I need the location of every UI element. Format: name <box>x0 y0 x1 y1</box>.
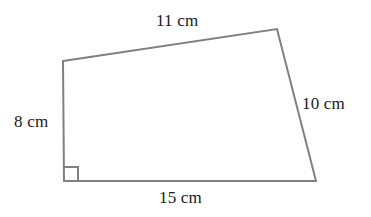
geometry-figure: 11 cm 8 cm 10 cm 15 cm <box>0 0 371 217</box>
side-length-label-right: 10 cm <box>302 95 345 112</box>
quadrilateral-outline <box>63 29 316 181</box>
side-length-label-bottom: 15 cm <box>159 189 202 206</box>
side-length-label-left: 8 cm <box>14 113 48 130</box>
side-length-label-top: 11 cm <box>156 12 198 29</box>
